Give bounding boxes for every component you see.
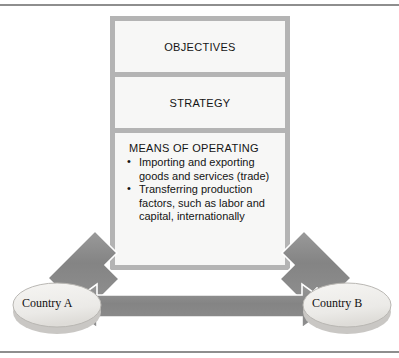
list-item: Transferring production factors, such as…	[127, 183, 275, 224]
central-stack: OBJECTIVES STRATEGY MEANS OF OPERATING I…	[110, 16, 290, 270]
means-bullet-list: Importing and exporting goods and servic…	[127, 156, 275, 224]
country-a-label: Country A	[22, 296, 72, 311]
top-divider-rule	[0, 4, 399, 6]
country-b-label: Country B	[312, 296, 362, 311]
objectives-title: OBJECTIVES	[164, 41, 235, 53]
list-item: Importing and exporting goods and servic…	[127, 156, 275, 183]
figure-container: OBJECTIVES STRATEGY MEANS OF OPERATING I…	[0, 0, 399, 358]
means-of-operating-panel[interactable]: MEANS OF OPERATING Importing and exporti…	[115, 133, 285, 265]
objectives-panel[interactable]: OBJECTIVES	[115, 21, 285, 72]
strategy-panel[interactable]: STRATEGY	[115, 77, 285, 128]
bottom-divider-rule	[0, 351, 399, 353]
strategy-title: STRATEGY	[170, 97, 231, 109]
means-of-operating-title: MEANS OF OPERATING	[129, 142, 275, 154]
